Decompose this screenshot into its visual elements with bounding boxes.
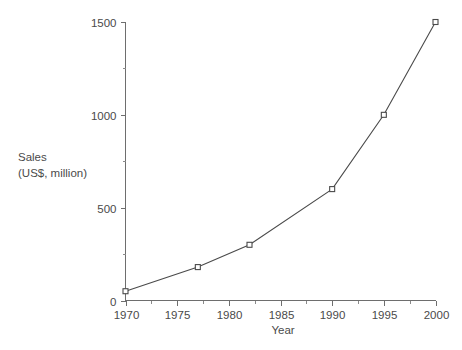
data-point-marker xyxy=(433,20,438,25)
y-tick-label: 0 xyxy=(110,296,116,308)
x-tick-label: 1970 xyxy=(114,309,140,321)
y-tick-label: 1000 xyxy=(91,110,117,122)
y-axis-title-line1: Sales xyxy=(18,151,47,163)
x-tick-label: 1990 xyxy=(320,309,346,321)
y-axis-title-line2: (US$, million) xyxy=(18,167,87,179)
x-tick-label: 1980 xyxy=(217,309,243,321)
data-point-marker xyxy=(381,112,386,117)
chart-canvas: 050010001500 197019751980198519901995200… xyxy=(0,0,462,350)
data-point-marker xyxy=(330,187,335,192)
x-tick-label: 1985 xyxy=(269,309,295,321)
line-chart: 050010001500 197019751980198519901995200… xyxy=(0,0,462,350)
data-point-marker xyxy=(195,265,200,270)
data-point-marker xyxy=(123,289,128,294)
y-tick-label: 1500 xyxy=(91,17,117,29)
y-tick-label: 500 xyxy=(97,203,116,215)
data-point-marker xyxy=(247,242,252,247)
x-tick-label: 1995 xyxy=(372,309,398,321)
x-axis-title: Year xyxy=(271,324,294,336)
x-tick-label: 2000 xyxy=(424,309,450,321)
x-tick-label: 1975 xyxy=(165,309,191,321)
